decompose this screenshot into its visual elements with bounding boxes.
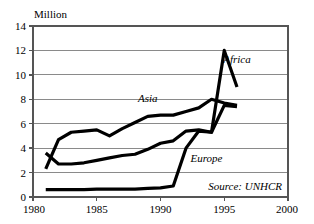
y-axis-tick-label: 0 [21,191,27,203]
series-annotation-africa: Africa [222,53,251,65]
unit-label: Million [34,8,68,20]
series-line-africa [46,50,237,164]
x-axis-labels: 19801985199019952000 [23,203,299,215]
x-axis-tick-label: 1995 [213,203,236,215]
x-axis-tick-label: 1990 [150,203,173,215]
y-axis-tick-label: 6 [21,118,27,130]
refugee-population-line-chart: Million 02468101214 19801985199019952000… [0,0,314,224]
y-axis-tick-label: 4 [21,142,27,154]
data-series-group [46,50,237,189]
series-annotation-europe: Europe [189,152,222,164]
x-axis-tick-label: 1985 [86,203,109,215]
plot-frame [33,26,288,197]
x-axis-tick-label: 2000 [276,203,299,215]
series-annotation-asia: Asia [137,92,158,104]
chart-canvas: Million 02468101214 19801985199019952000… [0,0,314,224]
source-note: Source: UNHCR [208,180,282,192]
y-axis-tick-label: 14 [15,20,27,32]
y-axis-tick-label: 12 [15,44,26,56]
y-axis-tick-label: 2 [21,167,27,179]
x-axis-tick-label: 1980 [23,203,46,215]
y-axis-tick-label: 10 [15,69,27,81]
y-axis-tick-label: 8 [21,93,27,105]
gridlines-group [33,50,288,172]
y-axis-labels: 02468101214 [15,20,27,203]
